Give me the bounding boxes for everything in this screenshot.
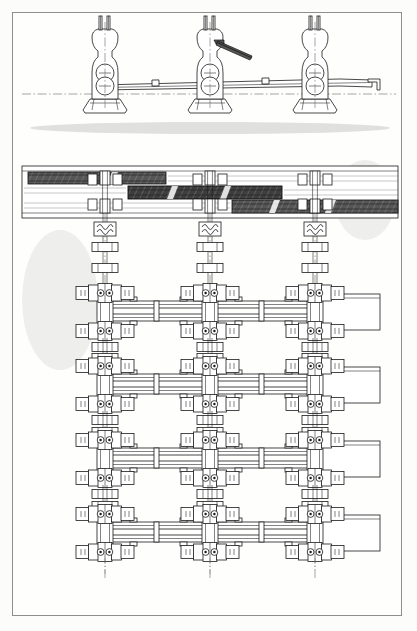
flange-r3-c3-top [286,431,344,450]
flange-r2-c2-top [181,357,239,376]
flange-r3-c2-bot [181,469,239,488]
flange-r1-c3-bot [286,322,344,341]
flange-r2-c1-bot [76,395,134,414]
flange-r1-c1-top [76,284,134,303]
flange-r3-c3-bot [286,469,344,488]
drawing-sheet: Three-pole isolator / disconnector switc… [0,0,417,631]
technical-drawing-canvas [0,0,417,631]
operating-rod-2 [128,186,282,199]
flange-r2-c2-bot [181,395,239,414]
flange-r3-c2-top [181,431,239,450]
plan-rods-view [22,166,398,218]
flange-r2-c3-bot [286,395,344,414]
flange-r2-c1-top [76,357,134,376]
flange-r1-c3-top [286,284,344,303]
flange-r3-c1-top [76,431,134,450]
flange-r4-c1-top [76,505,134,524]
flange-r1-c2-bot [181,322,239,341]
flange-r3-c1-bot [76,469,134,488]
flange-r2-c3-top [286,357,344,376]
flange-r1-c2-top [181,284,239,303]
flange-r4-c2-top [181,505,239,524]
flange-r4-c3-top [286,505,344,524]
flange-r1-c1-bot [76,322,134,341]
